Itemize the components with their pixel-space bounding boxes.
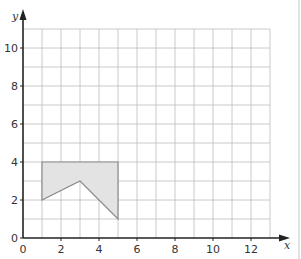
x-tick-label: 4 xyxy=(96,243,103,256)
y-tick-label: 0 xyxy=(11,232,18,245)
y-tick-label: 8 xyxy=(11,80,18,93)
coordinate-grid-chart: 0246810120246810 x y xyxy=(0,0,301,259)
x-tick-label: 0 xyxy=(20,243,27,256)
y-tick-label: 4 xyxy=(11,156,18,169)
x-tick-label: 8 xyxy=(172,243,179,256)
x-tick-label: 6 xyxy=(134,243,141,256)
y-tick-label: 2 xyxy=(11,194,18,207)
y-tick-label: 10 xyxy=(4,42,18,55)
x-tick-label: 10 xyxy=(206,243,220,256)
y-tick-label: 6 xyxy=(11,118,18,131)
axes xyxy=(20,9,291,242)
y-axis-arrow-icon xyxy=(20,9,27,20)
x-axis-label: x xyxy=(284,239,291,252)
x-tick-label: 2 xyxy=(58,243,65,256)
x-tick-label: 12 xyxy=(244,243,258,256)
grid-lines xyxy=(23,29,270,238)
y-axis-label: y xyxy=(11,10,19,23)
